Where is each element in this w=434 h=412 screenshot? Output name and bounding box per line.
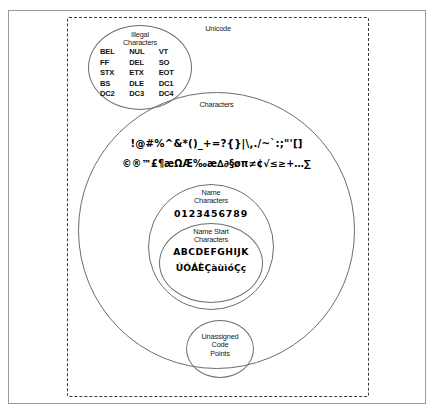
illegal-character-item: EOT bbox=[155, 68, 184, 77]
illegal-character-item: STX bbox=[96, 68, 125, 77]
diagram-canvas: Unicode Illegal Characters BEL NUL VT FF… bbox=[0, 0, 434, 412]
set-name-characters-label-line2: Characters bbox=[148, 197, 274, 205]
characters-symbols-row-2: ©®™£¶æΩÆ‰æ∆∂§øπ≠¢√≤≥+…∑ bbox=[74, 158, 359, 169]
set-illegal-characters-label: Illegal Characters bbox=[88, 31, 192, 48]
set-unassigned-code-points-label-line3: Points bbox=[186, 350, 254, 358]
illegal-character-item: DC1 bbox=[155, 79, 184, 88]
set-unassigned-code-points-label: Unassigned Code Points bbox=[186, 333, 254, 358]
name-characters-members: 0123456789 bbox=[148, 208, 274, 219]
illegal-character-item: DC2 bbox=[96, 89, 125, 98]
illegal-character-item: BEL bbox=[96, 47, 125, 56]
characters-symbols-row-1: !@#%^&*()_+=?{}|\,./~`:;"'[] bbox=[78, 138, 355, 149]
illegal-character-item: DLE bbox=[125, 79, 154, 88]
name-start-characters-members-row-2: ÚÓÁÈÇàùìóÇç bbox=[159, 262, 263, 273]
illegal-characters-member-grid: BEL NUL VT FF DEL SO STX ETX EOT BS DLE … bbox=[96, 47, 184, 98]
illegal-character-item: DEL bbox=[125, 58, 154, 67]
illegal-character-item: ETX bbox=[125, 68, 154, 77]
set-characters-label: Characters bbox=[78, 101, 355, 109]
illegal-character-item: DC3 bbox=[125, 89, 154, 98]
name-start-characters-members-row-1: ABCDEFGHIJK bbox=[159, 246, 263, 257]
illegal-character-item: VT bbox=[155, 47, 184, 56]
illegal-character-item: NUL bbox=[125, 47, 154, 56]
set-name-characters-label: Name Characters bbox=[148, 189, 274, 206]
set-name-start-characters-label-line2: Characters bbox=[159, 236, 263, 244]
illegal-character-item: SO bbox=[155, 58, 184, 67]
illegal-character-item: BS bbox=[96, 79, 125, 88]
illegal-character-item: FF bbox=[96, 58, 125, 67]
set-name-start-characters-label: Name Start Characters bbox=[159, 228, 263, 245]
